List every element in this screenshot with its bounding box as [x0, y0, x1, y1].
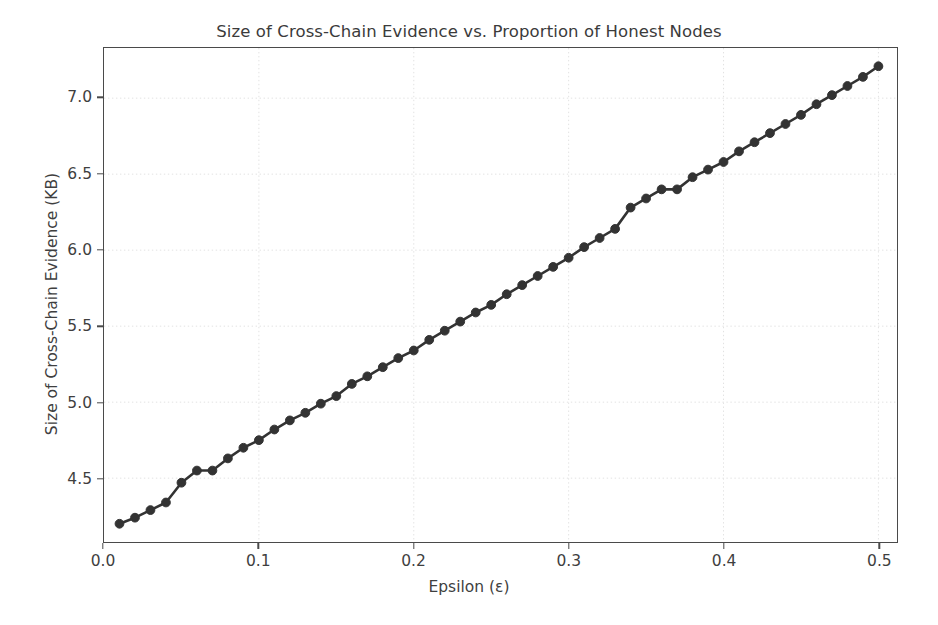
- x-tick-mark: [413, 543, 414, 549]
- x-tick-label: 0.3: [556, 552, 581, 570]
- y-tick-label: 6.0: [67, 241, 92, 259]
- x-tick-label: 0.5: [867, 552, 892, 570]
- y-tick-label: 6.5: [67, 165, 92, 183]
- y-tick-label: 5.5: [67, 317, 92, 335]
- x-tick-mark: [879, 543, 880, 549]
- x-tick-label: 0.4: [712, 552, 737, 570]
- y-tick-label: 7.0: [67, 88, 92, 106]
- y-tick-label: 4.5: [67, 470, 92, 488]
- x-tick-label: 0.1: [246, 552, 271, 570]
- plot-area: [103, 47, 898, 543]
- x-axis-label: Epsilon (ε): [0, 578, 938, 596]
- y-tick-label: 5.0: [67, 394, 92, 412]
- x-tick-mark: [258, 543, 259, 549]
- x-tick-mark: [568, 543, 569, 549]
- x-tick-mark: [723, 543, 724, 549]
- chart-title: Size of Cross-Chain Evidence vs. Proport…: [0, 22, 938, 41]
- x-tick-label-group: 0.00.10.20.30.40.5: [0, 552, 938, 578]
- x-tick-mark: [102, 543, 103, 549]
- x-tick-label: 0.2: [401, 552, 426, 570]
- x-tick-label: 0.0: [91, 552, 116, 570]
- data-series-line: [104, 48, 897, 542]
- y-tick-label-group: 4.55.05.56.06.57.0: [40, 0, 92, 625]
- chart-figure: Size of Cross-Chain Evidence vs. Proport…: [0, 0, 938, 625]
